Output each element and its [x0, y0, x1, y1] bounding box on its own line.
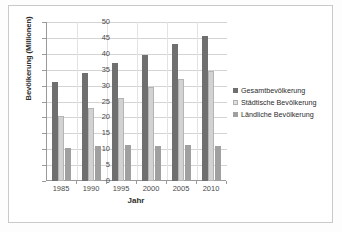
- category-separator: [77, 22, 78, 180]
- bar-total-1985: [52, 82, 58, 181]
- y-tick-label: 30: [84, 82, 110, 90]
- y-tick-label: 45: [84, 34, 110, 42]
- x-tick-label: 2005: [166, 184, 196, 193]
- legend-item: Gesamtbevölkerung: [233, 84, 329, 96]
- y-tick-mark: [42, 22, 46, 23]
- y-tick-mark: [42, 117, 46, 118]
- bar-total-1990: [82, 73, 88, 181]
- x-axis-label: Jahr: [46, 196, 226, 205]
- chart-legend: GesamtbevölkerungStädtische BevölkerungL…: [233, 84, 329, 120]
- bar-rural-1990: [95, 146, 101, 181]
- y-tick-mark: [42, 165, 46, 166]
- y-tick-mark: [42, 38, 46, 39]
- x-tick-label: 1995: [106, 184, 136, 193]
- category-separator: [167, 22, 168, 180]
- legend-swatch-icon: [233, 88, 238, 93]
- y-tick-label: 35: [84, 66, 110, 74]
- category-separator: [197, 22, 198, 180]
- y-tick-mark: [42, 181, 46, 182]
- y-tick-label: 25: [84, 98, 110, 106]
- legend-label: Gesamtbevölkerung: [241, 86, 305, 95]
- bar-urban-1990: [88, 108, 94, 181]
- legend-swatch-icon: [233, 100, 238, 105]
- plot-area: [46, 22, 226, 181]
- y-axis-label: Bevölkerung (Millionen): [24, 0, 33, 139]
- bar-urban-1985: [58, 116, 64, 181]
- y-tick-mark: [42, 70, 46, 71]
- y-tick-mark: [42, 102, 46, 103]
- y-tick-label: 50: [84, 18, 110, 26]
- y-tick-label: 40: [84, 50, 110, 58]
- y-tick-mark: [42, 149, 46, 150]
- bar-total-2010: [202, 36, 208, 181]
- bar-rural-2005: [185, 145, 191, 181]
- y-tick-mark: [42, 133, 46, 134]
- x-tick-label: 1985: [46, 184, 76, 193]
- y-tick-mark: [42, 86, 46, 87]
- chart-figure: Bevölkerung (Millionen) 0510152025303540…: [0, 0, 342, 232]
- bar-total-1995: [112, 63, 118, 181]
- bar-rural-2000: [155, 146, 161, 181]
- bar-rural-1985: [65, 148, 71, 181]
- bar-rural-1995: [125, 145, 131, 181]
- legend-swatch-icon: [233, 112, 238, 117]
- x-tick-mark: [226, 181, 227, 184]
- legend-label: Städtische Bevölkerung: [241, 98, 317, 107]
- legend-item: Städtische Bevölkerung: [233, 96, 329, 108]
- bar-urban-2000: [148, 87, 154, 181]
- legend-item: Ländliche Bevölkerung: [233, 108, 329, 120]
- bar-total-2005: [172, 44, 178, 181]
- x-tick-label: 2000: [136, 184, 166, 193]
- legend-label: Ländliche Bevölkerung: [241, 110, 314, 119]
- y-tick-mark: [42, 54, 46, 55]
- x-tick-label: 2010: [196, 184, 226, 193]
- bar-urban-2010: [208, 71, 214, 181]
- x-tick-label: 1990: [76, 184, 106, 193]
- bar-total-2000: [142, 55, 148, 181]
- bar-urban-1995: [118, 98, 124, 181]
- category-separator: [137, 22, 138, 180]
- bar-rural-2010: [215, 146, 221, 181]
- bar-urban-2005: [178, 79, 184, 181]
